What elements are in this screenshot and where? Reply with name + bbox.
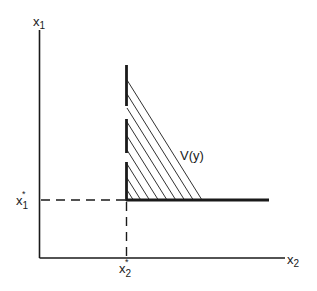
y-axis-label: x1 [33,14,46,31]
region-boundary [126,65,269,201]
region-label: V(y) [180,148,204,163]
reference-lines [41,200,127,258]
hatch-line [127,94,193,200]
x1-star-label: x1* [16,189,29,211]
hatch-line [127,190,133,200]
hatch-line [127,150,158,200]
hatch-line [127,108,185,200]
input-requirement-set-diagram: x1 x2 x1* x2* V(y) [0,0,317,291]
axes [40,30,286,258]
hatch-line [127,136,167,200]
hatch-line [127,178,141,200]
x-axis-label: x2 [287,252,300,269]
x2-star-label: x2* [119,257,132,279]
hatched-region [127,80,202,200]
